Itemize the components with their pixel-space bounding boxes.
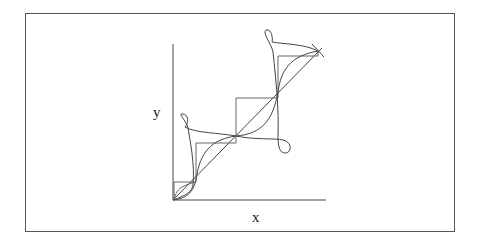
diagonal-line	[173, 48, 322, 200]
diagram-canvas	[0, 0, 481, 251]
y-axis-label: y	[153, 104, 161, 121]
looped-curve	[173, 30, 318, 200]
x-axis-label: x	[252, 209, 260, 226]
